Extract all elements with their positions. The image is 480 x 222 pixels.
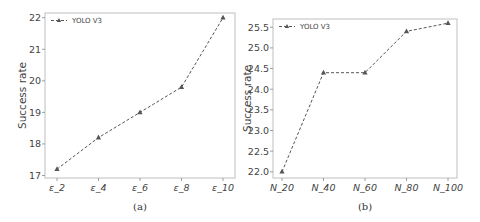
y-axis-label: Success rate <box>16 62 28 129</box>
y-tick-label: 17 <box>29 170 41 181</box>
y-tick-label: 22.5 <box>248 146 269 157</box>
x-tick-label: N_80 <box>395 182 419 193</box>
y-axis-label: Success rate <box>241 65 253 132</box>
legend-label: YOLO V3 <box>71 17 102 25</box>
triangle-marker <box>54 166 59 171</box>
triangle-marker <box>321 70 326 75</box>
triangle-marker <box>220 15 225 20</box>
triangle-marker <box>404 28 409 33</box>
x-tick-label: ε_4 <box>91 182 107 193</box>
series-line <box>57 18 223 169</box>
x-tick-label: N_20 <box>270 182 294 193</box>
figure: 171819202122ε_2ε_4ε_6ε_8ε_10Success rate… <box>0 0 480 222</box>
y-tick-label: 19 <box>29 107 41 118</box>
x-tick-label: N_100 <box>433 182 463 193</box>
y-tick-label: 22.0 <box>248 166 269 177</box>
x-tick-label: ε_10 <box>212 182 234 193</box>
chart-a: 171819202122ε_2ε_4ε_6ε_8ε_10Success rate… <box>16 12 235 212</box>
y-tick-label: 20 <box>29 75 41 86</box>
y-tick-label: 25.5 <box>248 22 269 33</box>
plot-frame <box>273 19 457 178</box>
x-tick-label: ε_8 <box>174 182 190 193</box>
triangle-marker <box>279 169 284 174</box>
x-tick-label: N_40 <box>312 182 336 193</box>
chart-b: 22.022.523.023.524.024.525.025.5N_20N_40… <box>241 19 463 212</box>
x-tick-label: N_60 <box>353 182 377 193</box>
triangle-marker <box>96 135 101 140</box>
x-tick-label: ε_2 <box>49 182 65 193</box>
y-tick-label: 22 <box>29 12 41 23</box>
triangle-marker <box>445 20 450 25</box>
y-tick-label: 21 <box>29 44 41 55</box>
subfigure-caption: (a) <box>133 201 147 212</box>
y-tick-label: 25.0 <box>248 42 269 53</box>
x-tick-label: ε_6 <box>132 182 148 193</box>
subfigure-caption: (b) <box>358 201 372 212</box>
legend-label: YOLO V3 <box>299 23 330 31</box>
series-line <box>282 23 448 172</box>
plot-frame <box>45 13 235 178</box>
y-tick-label: 18 <box>29 138 41 149</box>
